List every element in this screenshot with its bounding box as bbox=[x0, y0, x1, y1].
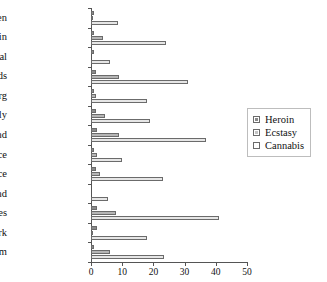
category-label: Ireland bbox=[0, 129, 7, 140]
bar-cannabis bbox=[91, 21, 118, 25]
x-axis-tick-label: 40 bbox=[211, 267, 221, 277]
y-axis-tick bbox=[88, 125, 91, 126]
y-axis-tick bbox=[88, 145, 91, 146]
category-label: Luxembourg bbox=[0, 90, 7, 101]
bar-heroin bbox=[91, 148, 94, 152]
chart-legend: Heroin Ecstasy Cannabis bbox=[247, 108, 311, 157]
legend-item-heroin: Heroin bbox=[253, 113, 304, 126]
bar-ecstasy bbox=[91, 231, 93, 235]
bar-heroin bbox=[91, 11, 94, 15]
bar-ecstasy bbox=[91, 75, 119, 79]
legend-item-cannabis: Cannabis bbox=[253, 139, 304, 152]
x-axis-line bbox=[91, 262, 248, 263]
bar-ecstasy bbox=[91, 133, 119, 137]
x-axis-tick-label: 30 bbox=[180, 267, 190, 277]
bar-cannabis bbox=[91, 255, 164, 259]
y-axis-tick bbox=[88, 47, 91, 48]
bar-cannabis bbox=[91, 80, 188, 84]
bar-ecstasy bbox=[91, 94, 96, 98]
bar-ecstasy bbox=[91, 153, 97, 157]
bar-cannabis bbox=[91, 41, 166, 45]
bar-ecstasy bbox=[91, 172, 100, 176]
x-axis-tick bbox=[122, 262, 123, 266]
bar-ecstasy bbox=[91, 36, 103, 40]
bar-cannabis bbox=[91, 119, 150, 123]
legend-label-ecstasy: Ecstasy bbox=[265, 127, 297, 138]
y-axis-tick bbox=[88, 184, 91, 185]
y-axis-tick bbox=[88, 164, 91, 165]
category-label: England and Wales bbox=[0, 207, 7, 218]
bar-heroin bbox=[91, 50, 94, 54]
bar-heroin bbox=[91, 31, 94, 35]
x-axis-tick-label: 0 bbox=[89, 267, 94, 277]
category-label: Belgium bbox=[0, 246, 7, 257]
category-label: Finland bbox=[0, 188, 7, 199]
x-axis-tick bbox=[185, 262, 186, 266]
y-axis-tick bbox=[88, 8, 91, 9]
bar-cannabis bbox=[91, 197, 108, 201]
x-axis-tick bbox=[91, 262, 92, 266]
category-label: Portugal bbox=[0, 51, 7, 62]
y-axis-tick bbox=[88, 86, 91, 87]
bar-heroin bbox=[91, 109, 96, 113]
legend-swatch-cannabis bbox=[253, 142, 260, 149]
bar-heroin bbox=[91, 245, 94, 249]
y-axis-tick bbox=[88, 223, 91, 224]
x-axis-tick bbox=[216, 262, 217, 266]
bar-cannabis bbox=[91, 138, 206, 142]
legend-swatch-ecstasy bbox=[253, 129, 260, 136]
category-label: Netherlands bbox=[0, 70, 7, 81]
category-label: Spain bbox=[0, 31, 7, 42]
x-axis-tick-label: 50 bbox=[242, 267, 252, 277]
bar-cannabis bbox=[91, 177, 163, 181]
bar-ecstasy bbox=[91, 16, 93, 20]
legend-item-ecstasy: Ecstasy bbox=[253, 126, 304, 139]
drug-use-bar-chart: SwedenSpainPortugalNetherlandsLuxembourg… bbox=[0, 0, 327, 282]
plot-area: SwedenSpainPortugalNetherlandsLuxembourg… bbox=[91, 8, 247, 262]
category-label: Denmark bbox=[0, 227, 7, 238]
category-label: Greece bbox=[0, 149, 7, 160]
bar-heroin bbox=[91, 226, 97, 230]
bar-ecstasy bbox=[91, 250, 110, 254]
bar-ecstasy bbox=[91, 211, 116, 215]
x-axis-tick bbox=[247, 262, 248, 266]
y-axis-tick bbox=[88, 67, 91, 68]
x-axis-tick bbox=[153, 262, 154, 266]
x-axis-tick-label: 10 bbox=[117, 267, 127, 277]
legend-label-cannabis: Cannabis bbox=[265, 140, 304, 151]
legend-swatch-heroin bbox=[253, 116, 260, 123]
legend-label-heroin: Heroin bbox=[265, 114, 294, 125]
y-axis-tick bbox=[88, 28, 91, 29]
bar-cannabis bbox=[91, 216, 219, 220]
y-axis-tick bbox=[88, 203, 91, 204]
x-axis-tick-label: 20 bbox=[149, 267, 159, 277]
bar-heroin bbox=[91, 167, 96, 171]
bar-ecstasy bbox=[91, 114, 105, 118]
bar-heroin bbox=[91, 70, 96, 74]
bar-heroin bbox=[91, 89, 94, 93]
y-axis-tick bbox=[88, 242, 91, 243]
bar-cannabis bbox=[91, 236, 147, 240]
category-label: Italy bbox=[0, 109, 7, 120]
bar-heroin bbox=[91, 206, 97, 210]
bar-cannabis bbox=[91, 158, 122, 162]
bar-cannabis bbox=[91, 99, 147, 103]
y-axis-tick bbox=[88, 106, 91, 107]
category-label: France bbox=[0, 168, 7, 179]
bar-cannabis bbox=[91, 60, 110, 64]
category-label: Sweden bbox=[0, 12, 7, 23]
bar-heroin bbox=[91, 128, 97, 132]
